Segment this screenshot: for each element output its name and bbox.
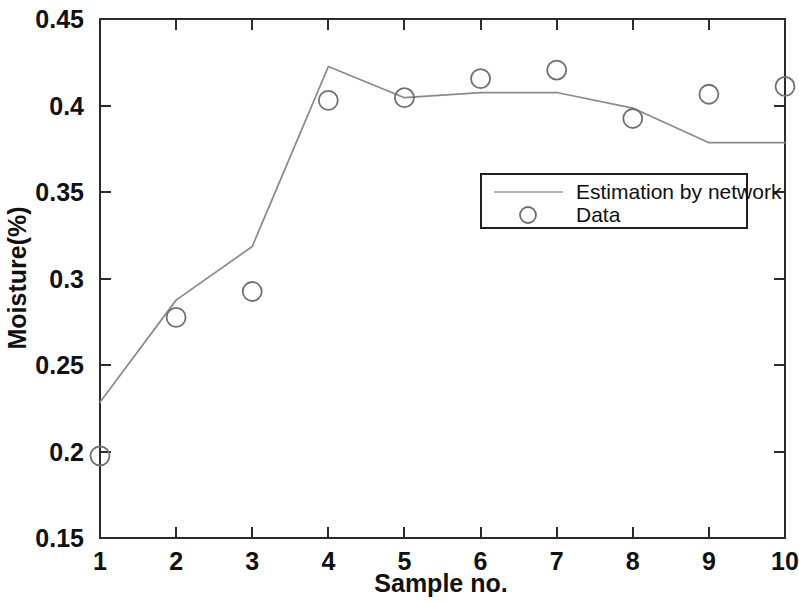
x-tick-label: 9 bbox=[702, 547, 716, 575]
y-tick-label: 0.35 bbox=[35, 178, 84, 206]
moisture-estimation-line-chart: 0.150.20.250.30.350.40.45 12345678910 Sa… bbox=[0, 0, 799, 602]
x-tick-label: 2 bbox=[169, 547, 183, 575]
x-tick-label: 1 bbox=[93, 547, 107, 575]
y-tick-label: 0.2 bbox=[49, 438, 84, 466]
legend-label-data: Data bbox=[576, 203, 621, 226]
y-tick-label: 0.25 bbox=[35, 351, 84, 379]
y-tick-label: 0.3 bbox=[49, 265, 84, 293]
y-axis-tick-labels: 0.150.20.250.30.350.40.45 bbox=[35, 5, 84, 552]
chart-figure: 0.150.20.250.30.350.40.45 12345678910 Sa… bbox=[0, 0, 799, 602]
y-axis-title: Moisture(%) bbox=[3, 206, 31, 349]
legend: Estimation by network Data bbox=[481, 174, 782, 228]
plot-frame bbox=[100, 19, 785, 538]
y-tick-label: 0.4 bbox=[49, 92, 84, 120]
y-tick-label: 0.45 bbox=[35, 5, 84, 33]
x-tick-label: 3 bbox=[245, 547, 259, 575]
legend-label-estimation: Estimation by network bbox=[576, 180, 782, 203]
x-tick-label: 7 bbox=[550, 547, 564, 575]
x-axis-title: Sample no. bbox=[374, 569, 507, 597]
x-tick-label: 10 bbox=[771, 547, 799, 575]
x-tick-label: 4 bbox=[321, 547, 335, 575]
plot-background bbox=[100, 19, 785, 538]
y-tick-label: 0.15 bbox=[35, 524, 84, 552]
x-tick-label: 8 bbox=[626, 547, 640, 575]
